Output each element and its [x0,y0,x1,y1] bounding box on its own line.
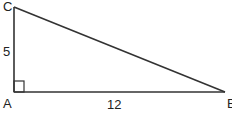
right-angle-marker [14,81,24,92]
vertex-label-a: A [3,97,12,110]
side-cb-hypotenuse [14,7,225,92]
side-label-ac: 5 [3,45,10,58]
vertex-label-b: B [227,97,232,110]
vertex-label-c: C [3,0,12,13]
side-label-ab: 12 [107,98,121,111]
